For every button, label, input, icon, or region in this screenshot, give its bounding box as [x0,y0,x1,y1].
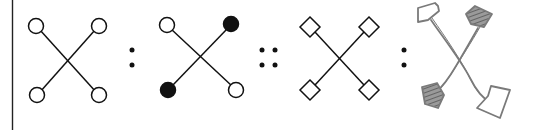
trapezoid-open-icon [477,86,510,118]
colon-separator [402,48,407,68]
circle-open-icon [160,18,175,33]
circle-filled-icon [161,83,176,98]
figure-c [300,17,379,100]
circle-open-icon [92,19,107,34]
circle-open-icon [229,83,244,98]
figure-d-sketch [418,3,510,118]
double-colon-separator [260,48,278,68]
figure-b [160,17,244,98]
circle-filled-icon [224,17,239,32]
analogy-puzzle [0,0,534,130]
circle-open-icon [29,19,44,34]
figure-a [29,19,107,103]
circle-open-icon [92,88,107,103]
colon-separator [130,48,135,68]
square-hatched-icon [466,6,492,27]
pentagon-open-icon [418,3,439,22]
circle-open-icon [30,88,45,103]
